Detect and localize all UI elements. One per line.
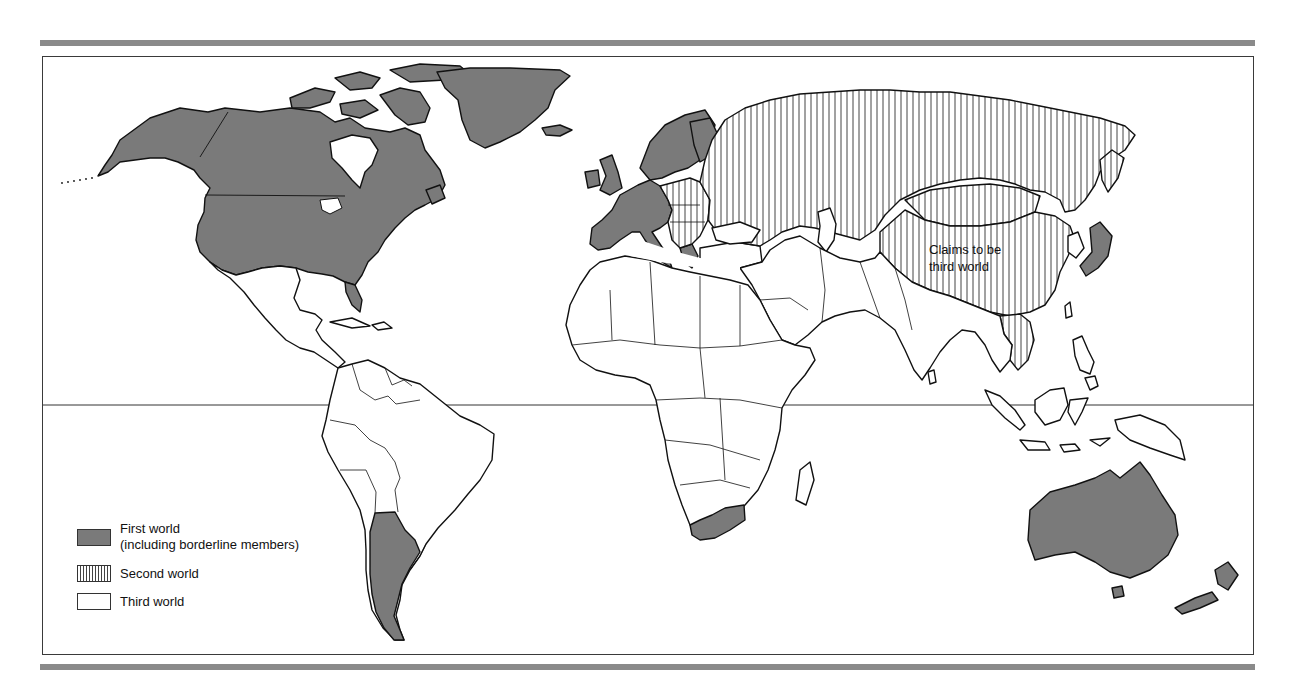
third-world-swatch-icon: [77, 593, 111, 610]
annotation-line-1: Claims to be: [929, 241, 1001, 258]
region-north-america: [98, 64, 572, 312]
second-world-swatch-icon: [77, 565, 111, 582]
region-japan: [1080, 222, 1112, 276]
annotation-line-2: third world: [929, 258, 1001, 275]
first-world-swatch-icon: [77, 529, 111, 546]
region-latin-america: [210, 262, 494, 640]
world-map: [0, 0, 1302, 697]
region-new-zealand: [1215, 562, 1238, 590]
region-australia: [1028, 462, 1178, 578]
legend-label-first-world-sub: (including borderline members): [120, 537, 299, 553]
legend-label-third-world: Third world: [120, 594, 184, 610]
legend-label-first-world: First world: [120, 521, 180, 537]
region-uk: [600, 155, 622, 195]
legend-label-second-world: Second world: [120, 566, 199, 582]
china-annotation: Claims to be third world: [929, 241, 1001, 275]
bottom-rule-bar: [40, 664, 1255, 670]
